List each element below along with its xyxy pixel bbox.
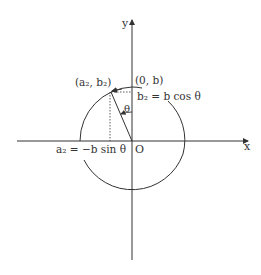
rotated-point-label: (a₂, b₂) (75, 76, 111, 88)
x-axis-label: x (244, 140, 251, 153)
circle-arc-right (168, 101, 185, 154)
origin-label: O (135, 143, 144, 156)
circle-arc-main (80, 87, 132, 141)
a2-equation: a₂ = −b sin θ (56, 143, 126, 155)
circle-arc-lower (84, 154, 183, 190)
radius-line (111, 92, 132, 141)
b2-equation: b₂ = b cos θ (137, 90, 201, 102)
top-point-label: (0, b) (135, 74, 163, 86)
rotation-diagram: y x O (0, b) (a₂, b₂) b₂ = b cos θ a₂ = … (0, 0, 261, 275)
circle-arc-top-right (132, 87, 142, 88)
theta-label: θ (124, 103, 130, 114)
y-axis-label: y (121, 17, 129, 30)
